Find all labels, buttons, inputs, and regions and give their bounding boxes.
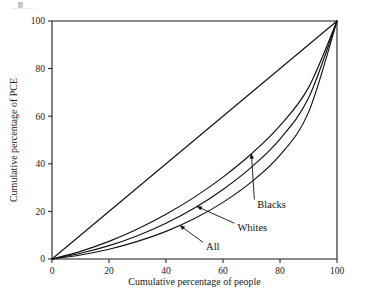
series-label-whites: Whites [237, 222, 267, 233]
x-tick-label: 20 [104, 266, 114, 276]
y-tick-label: 40 [36, 159, 46, 169]
y-tick-label: 0 [40, 254, 45, 264]
y-tick-label: 100 [31, 16, 46, 26]
lorenz-curve-chart: 020406080100 020406080100 BlacksWhitesAl… [0, 0, 369, 302]
x-tick-label: 40 [161, 266, 171, 276]
y-tick-label: 20 [36, 207, 46, 217]
x-tick-label: 100 [330, 266, 345, 276]
artifact-line [12, 8, 34, 9]
x-axis-title: Cumulative percentage of people [128, 276, 261, 287]
x-tick-label: 60 [218, 266, 228, 276]
series-label-blacks: Blacks [257, 199, 286, 210]
figure-container: 020406080100 020406080100 BlacksWhitesAl… [0, 0, 369, 302]
y-axis-title: Cumulative percentage of PCE [8, 78, 19, 202]
y-tick-label: 60 [36, 112, 46, 122]
x-tick-label: 80 [275, 266, 285, 276]
x-tick-label: 0 [50, 266, 55, 276]
series-label-all: All [206, 241, 220, 252]
y-tick-label: 80 [36, 64, 46, 74]
page-scan-artifact [12, 1, 34, 10]
